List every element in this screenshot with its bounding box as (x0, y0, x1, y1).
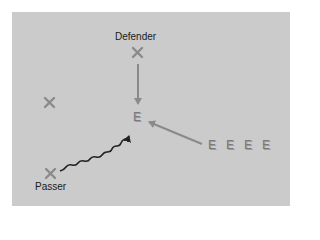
receiver-arrow (149, 122, 202, 144)
receiver-e-2: E (226, 139, 234, 151)
pass-wavy-arrow (60, 136, 129, 171)
defender-x-icon (133, 48, 142, 57)
player-x-icon (45, 98, 54, 107)
passer-x-icon (46, 169, 55, 178)
passer-label: Passer (35, 181, 66, 192)
receiver-e-3: E (244, 139, 252, 151)
defender-label: Defender (115, 31, 156, 42)
receiver-e-4: E (262, 139, 270, 151)
receiver-e-1: E (208, 139, 216, 151)
target-receiver-e: E (133, 111, 141, 123)
